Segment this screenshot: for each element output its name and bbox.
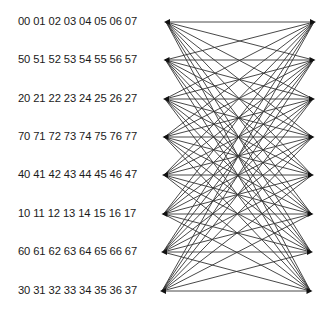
network-edge: [164, 22, 314, 175]
left-node-icon: [162, 172, 168, 178]
right-node-icon: [308, 211, 314, 217]
network-edge: [165, 22, 315, 137]
left-node-icon: [162, 211, 168, 217]
network-edges: [162, 22, 314, 291]
right-node-icon: [309, 96, 315, 102]
network-edge: [162, 99, 313, 291]
right-node-icon: [309, 134, 315, 140]
network-edge: [162, 22, 314, 291]
right-node-icon: [308, 172, 314, 178]
left-node-icon: [163, 134, 169, 140]
network-edge: [162, 60, 314, 291]
left-node-icon: [163, 96, 169, 102]
bipartite-network: [0, 0, 332, 321]
